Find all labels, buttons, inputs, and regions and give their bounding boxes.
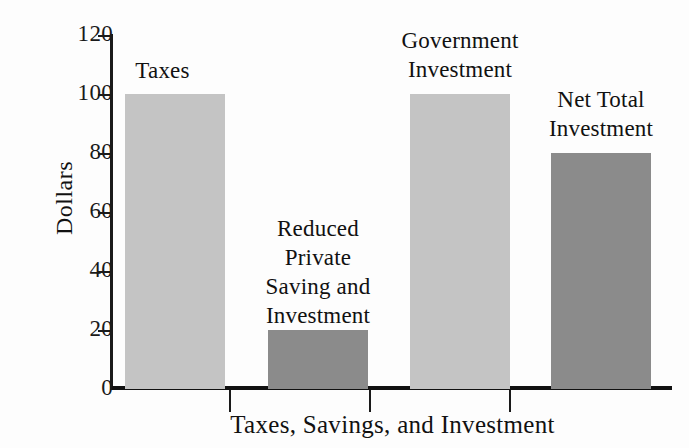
x-tick-mark-1 [229,390,231,412]
y-tick-label: 120 [55,22,113,45]
bar-label-government-investment: Government Investment [375,26,545,84]
bar-government-investment[interactable] [410,94,510,389]
bar-label-taxes: Taxes [95,56,230,85]
y-tick-label: 0 [55,376,113,399]
bar-label-net-total-investment: Net Total Investment [516,85,686,143]
bar-chart-figure: 120 100 80 60 40 20 0 Taxes Reduced Priv… [0,0,689,448]
x-tick-mark-3 [509,390,511,412]
bar-reduced-private-saving-and-investment[interactable] [268,330,368,389]
bar-label-reduced-private-saving-and-investment: Reduced Private Saving and Investment [238,214,398,330]
x-axis-title: Taxes, Savings, and Investment [113,410,672,440]
y-tick-label: 20 [55,317,113,340]
bar-net-total-investment[interactable] [551,153,651,389]
y-axis-title: Dollars [52,128,76,268]
x-tick-mark-2 [369,390,371,412]
bar-taxes[interactable] [125,94,225,389]
